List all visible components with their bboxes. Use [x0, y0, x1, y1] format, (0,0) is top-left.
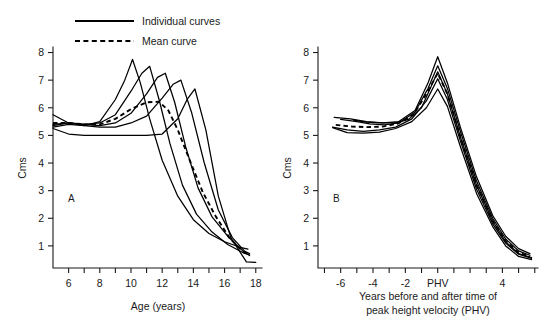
individual-curve: [354, 72, 532, 258]
x-tick-label: 12: [156, 277, 168, 289]
x-tick-label: 4: [499, 277, 505, 289]
x-tick-label: -4: [368, 277, 377, 289]
y-tick-label: 1: [303, 240, 309, 252]
x-tick-label: 10: [125, 277, 137, 289]
x-tick-label: -6: [336, 277, 345, 289]
x-tick-label: 6: [66, 277, 72, 289]
y-tick-label: 5: [303, 129, 309, 141]
legend-label: Individual curves: [142, 15, 220, 27]
y-tick-label: 8: [38, 46, 44, 58]
x-tick-label: 14: [188, 277, 200, 289]
x-axis-title: Age (years): [131, 300, 185, 312]
panel-letter: A: [68, 193, 75, 204]
x-tick-label: -2: [401, 277, 410, 289]
individual-curve: [333, 79, 532, 259]
y-tick-label: 4: [38, 157, 44, 169]
legend: Individual curvesMean curve: [75, 15, 220, 47]
individual-curve: [53, 73, 250, 255]
y-tick-label: 5: [38, 129, 44, 141]
y-tick-label: 7: [303, 74, 309, 86]
y-tick-label: 3: [303, 184, 309, 196]
y-tick-label: 3: [38, 184, 44, 196]
individual-curve: [53, 89, 256, 262]
y-tick-label: 2: [38, 212, 44, 224]
y-tick-label: 6: [38, 102, 44, 114]
x-tick-label: 8: [97, 277, 103, 289]
x-axis-title-line2: peak height velocity (PHV): [366, 304, 490, 316]
x-tick-label: PHV: [427, 277, 449, 289]
y-axis-title: Cms: [281, 157, 293, 179]
x-axis-title-line1: Years before and after time of: [359, 290, 497, 302]
y-axis-title: Cms: [16, 157, 28, 179]
x-tick-label: 16: [219, 277, 231, 289]
individual-curve: [334, 57, 530, 254]
y-tick-label: 7: [38, 74, 44, 86]
x-tick-label: 18: [250, 277, 262, 289]
y-tick-label: 8: [303, 46, 309, 58]
y-tick-label: 1: [38, 240, 44, 252]
y-tick-label: 2: [303, 212, 309, 224]
panel-b: 12345678-6-4-2PHV4BCmsYears before and a…: [281, 46, 538, 316]
panel-letter: B: [333, 193, 340, 204]
y-tick-label: 6: [303, 102, 309, 114]
legend-label: Mean curve: [142, 35, 197, 47]
figure-root: 12345678681012141618ACmsAge (years) 1234…: [0, 0, 550, 331]
panel-a: 12345678681012141618ACmsAge (years): [16, 46, 262, 312]
y-tick-label: 4: [303, 157, 309, 169]
